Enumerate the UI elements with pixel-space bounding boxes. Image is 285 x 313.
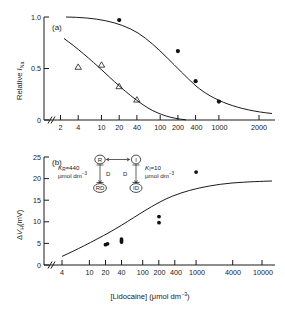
panel-a: 1.0 0.5 0 2 4 10 20 40 100 200 400 1000 [15, 13, 275, 132]
panel-b-curve [62, 181, 272, 256]
kr-value: =440 [65, 164, 79, 171]
panel-a-xtick-label-4: 40 [133, 123, 141, 132]
panel-a-xtick-label-0: 2 [59, 123, 63, 132]
xaxis-unit-main: mol dm [156, 292, 181, 301]
panel-b-xtick-label-5: 200 [153, 268, 165, 277]
panel-b-ytick-label-2: 15 [33, 196, 41, 205]
panel-b-xtick-label-6: 400 [170, 268, 182, 277]
panel-b-point-6 [157, 215, 161, 219]
figure-svg: 1.0 0.5 0 2 4 10 20 40 100 200 400 1000 [0, 0, 285, 313]
panel-b-xtick-label-3: 40 [118, 268, 126, 277]
panel-b-point-5 [157, 221, 161, 225]
panel-b-xtick-label-1: 10 [85, 268, 93, 277]
state-label-r: R [98, 157, 103, 163]
panel-b-ylabel-units: (mV) [15, 209, 24, 226]
ki-units-exp: −3 [169, 171, 175, 176]
panel-a-xtick-label-5: 100 [154, 123, 166, 132]
ki-units: μmol dm−3 [145, 171, 175, 178]
panel-b-xtick-label-0: 4 [60, 268, 64, 277]
panel-a-point-circle-3 [217, 100, 221, 104]
panel-b-point-1 [106, 242, 110, 246]
panel-b-xtick-label-4: 100 [137, 268, 149, 277]
panel-b-ytick-label-4: 5 [37, 239, 41, 248]
panel-a-point-triangle-3 [134, 97, 140, 102]
x-axis-title: [Lidocaine] (μmol dm−3) [110, 291, 190, 301]
panel-a-xtick-label-2: 10 [98, 123, 106, 132]
panel-a-xtick-label-8: 1000 [212, 123, 228, 132]
panel-a-y-axis-title: Relative INa [15, 62, 25, 100]
panel-b-xtick-label-2: 20 [102, 268, 110, 277]
panel-b-xtick-label-9: 10000 [253, 268, 273, 277]
figure-panel-container: 1.0 0.5 0 2 4 10 20 40 100 200 400 1000 [0, 0, 285, 313]
panel-b-y-axis-title: ΔVH(mV) [15, 209, 25, 240]
panel-a-ytick-label-1: 0.5 [31, 64, 41, 73]
panel-a-ylabel-main: Relative [15, 70, 24, 100]
state-label-id: ID [133, 185, 140, 191]
xaxis-units-close: ) [187, 292, 190, 301]
panel-a-xtick-label-6: 200 [172, 123, 184, 132]
panel-b-ytick-label-3: 10 [33, 217, 41, 226]
kr-units-exp: −3 [82, 171, 88, 176]
panel-a-ytick-label-2: 0 [37, 116, 41, 125]
panel-b-ytick-label-5: 0 [37, 261, 41, 270]
svg-text:ΔVH(mV): ΔVH(mV) [15, 209, 25, 240]
panel-a-point-triangle-1 [98, 62, 104, 67]
panel-a-point-circle-2 [194, 79, 198, 83]
panel-a-point-circle-0 [117, 18, 121, 22]
panel-a-xtick-label-9: 2000 [251, 123, 267, 132]
state-label-rd: RD [96, 185, 105, 191]
panel-b-x-ticks [62, 260, 262, 265]
panel-b-ytick-label-0: 25 [33, 153, 41, 162]
panel-a-xtick-label-1: 4 [76, 123, 80, 132]
drug-label-right: D [123, 171, 128, 177]
panel-a-x-ticks [61, 115, 260, 120]
panel-b-point-7 [194, 170, 198, 174]
ki-value: =10 [150, 164, 161, 171]
ki-units-main: mol dm [149, 172, 169, 179]
panel-a-xtick-label-7: 400 [190, 123, 202, 132]
panel-a-xtick-label-3: 20 [115, 123, 123, 132]
xaxis-analyte: Lidocaine [113, 292, 146, 301]
kinetic-scheme-diagram: R I RD ID D D [58, 155, 175, 192]
panel-b-xtick-label-7: 1000 [189, 268, 205, 277]
panel-a-ylabel-sub: Na [19, 62, 25, 69]
drug-label-left: D [106, 171, 111, 177]
panel-b-xtick-label-8: 4000 [225, 268, 241, 277]
panel-a-point-triangle-0 [75, 64, 81, 69]
svg-text:Relative INa: Relative INa [15, 62, 25, 100]
state-label-i: I [135, 157, 137, 163]
panel-a-point-circle-1 [176, 49, 180, 53]
panel-a-curve-triangles [64, 39, 186, 120]
panel-b: 25 20 15 10 5 0 4 10 20 40 100 200 400 [15, 153, 275, 277]
kr-units: μmol dm−3 [58, 171, 88, 178]
panel-b-ytick-label-1: 20 [33, 174, 41, 183]
panel-a-ytick-label-0: 1.0 [31, 13, 41, 22]
panel-a-label: (a) [52, 23, 62, 32]
panel-b-point-4 [120, 237, 124, 241]
kr-units-main: mol dm [62, 172, 82, 179]
